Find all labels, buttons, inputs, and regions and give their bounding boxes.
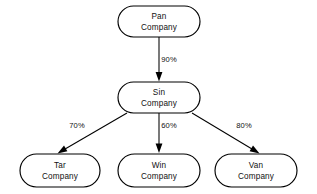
node-tar-company-line2: Company [42, 172, 79, 181]
edge-label-sin-win: 60% [161, 121, 177, 130]
edge-line-sin-van [192, 113, 255, 151]
node-pan-company-line1: Pan [151, 12, 166, 21]
node-tar-company-line1: Tar [54, 161, 66, 170]
edge-label-sin-van: 80% [236, 121, 252, 130]
node-sin-company[interactable]: Sin Company [118, 82, 200, 113]
node-tar-company[interactable]: Tar Company [20, 154, 100, 187]
node-sin-company-shape [118, 82, 200, 113]
node-win-company[interactable]: Win Company [118, 154, 200, 187]
node-tar-company-shape [20, 154, 100, 187]
node-van-company-line2: Company [238, 172, 275, 181]
ownership-diagram: 90% 70% 60% 80% Pan Company Sin Company [0, 0, 317, 194]
edge-line-sin-tar [63, 113, 128, 151]
diagram-canvas: 90% 70% 60% 80% Pan Company Sin Company [0, 0, 317, 194]
node-van-company-shape [215, 154, 297, 187]
node-win-company-line2: Company [141, 172, 178, 181]
arrowhead-sin-van [250, 145, 260, 153]
edge-sin-van: 80% [192, 113, 260, 154]
edge-sin-win: 60% [156, 113, 177, 153]
node-pan-company-shape [118, 6, 200, 37]
node-win-company-line1: Win [152, 161, 167, 170]
node-pan-company[interactable]: Pan Company [118, 6, 200, 37]
edge-sin-tar: 70% [58, 113, 128, 154]
arrowhead-sin-tar [58, 145, 68, 153]
node-van-company[interactable]: Van Company [215, 154, 297, 187]
edge-label-pan-sin: 90% [161, 55, 177, 64]
arrowhead-pan-sin [156, 72, 163, 82]
node-sin-company-line1: Sin [153, 88, 166, 97]
arrowhead-sin-win [156, 144, 163, 154]
node-sin-company-line2: Company [141, 99, 178, 108]
node-win-company-shape [118, 154, 200, 187]
edge-label-sin-tar: 70% [69, 121, 85, 130]
node-van-company-line1: Van [249, 161, 264, 170]
edge-pan-sin: 90% [156, 37, 177, 82]
node-pan-company-line2: Company [141, 23, 178, 32]
